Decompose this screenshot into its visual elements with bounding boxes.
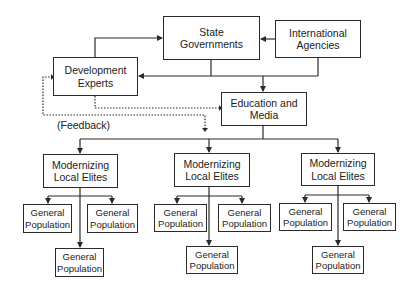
feedback-label: (Feedback)	[57, 119, 110, 131]
general-population-box: General Population	[312, 246, 364, 274]
general-population-box: General Population	[154, 204, 207, 232]
general-population-box: General Population	[23, 204, 72, 233]
development-experts-box: Development Experts	[53, 57, 138, 96]
general-population-box: General Population	[343, 203, 396, 231]
general-population-box: General Population	[186, 246, 238, 274]
general-population-box: General Population	[87, 204, 138, 233]
general-population-box: General Population	[218, 204, 271, 232]
general-population-box: General Population	[279, 203, 332, 231]
modernizing-elites-box-right: Modernizing Local Elites	[301, 153, 375, 186]
general-population-box: General Population	[55, 248, 104, 277]
modernizing-elites-box-middle: Modernizing Local Elites	[174, 153, 250, 187]
international-agencies-box: International Agencies	[275, 20, 361, 58]
modernizing-elites-box-left: Modernizing Local Elites	[43, 154, 118, 188]
state-governments-box: State Governments	[163, 16, 260, 60]
education-media-box: Education and Media	[221, 92, 307, 126]
